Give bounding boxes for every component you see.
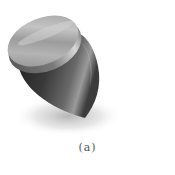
figure-caption: (a) <box>0 141 175 154</box>
figure: (a) <box>0 0 175 175</box>
